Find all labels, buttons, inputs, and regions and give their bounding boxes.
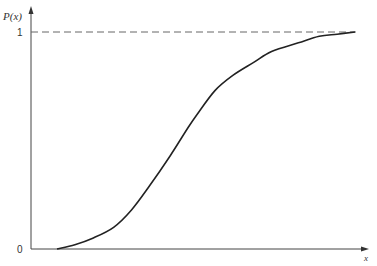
y-tick-label-1: 1 xyxy=(17,27,23,38)
y-tick-label-0: 0 xyxy=(17,244,23,255)
series-line-px xyxy=(57,32,355,249)
y-axis-arrow xyxy=(29,6,34,14)
chart-canvas: P(x) 1 0 x xyxy=(0,0,377,266)
x-axis-arrow xyxy=(361,247,369,252)
x-axis-label: x xyxy=(363,253,368,263)
y-axis-label: P(x) xyxy=(2,10,22,23)
